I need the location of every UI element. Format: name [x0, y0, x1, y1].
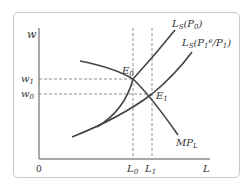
ls-p0-label: LS(P0)	[171, 18, 203, 31]
L1-label: L1	[144, 163, 156, 176]
w1-label: w1	[21, 73, 34, 86]
L0-label: L0	[126, 163, 139, 176]
origin-label: 0	[36, 164, 42, 174]
w0-label: w0	[21, 88, 35, 101]
ls-p0-curve	[97, 30, 175, 127]
ls-p1-curve	[72, 52, 192, 137]
y-axis-label: w	[27, 28, 37, 41]
mpl-label: MPL	[175, 137, 198, 150]
x-axis-label: L	[202, 163, 210, 174]
ls-p1-label: LS(P1e/P1)	[181, 37, 231, 50]
labor-market-chart: w 0 L w1 w0 L0 L1 E0 E1 LS(P0) LS(P1e/P1…	[0, 0, 249, 182]
E1-label: E1	[155, 90, 168, 103]
